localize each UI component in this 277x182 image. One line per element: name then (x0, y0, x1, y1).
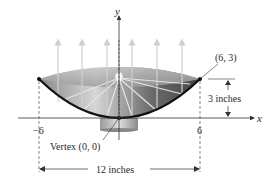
x-axis-label: x (256, 112, 262, 124)
tick-pos6: 6 (197, 125, 202, 136)
depth-label: 3 inches (208, 93, 241, 104)
parabola-diagram: y x −6 6 (6, 3) 3 inches Vertex (0, 0) 1… (0, 0, 277, 182)
width-label: 12 inches (96, 164, 134, 175)
y-axis-label: y (114, 5, 120, 17)
vertex-label: Vertex (0, 0) (50, 141, 100, 153)
rim-point-label: (6, 3) (215, 52, 237, 64)
tick-neg6: −6 (33, 125, 44, 136)
rim-point-left (37, 77, 41, 81)
